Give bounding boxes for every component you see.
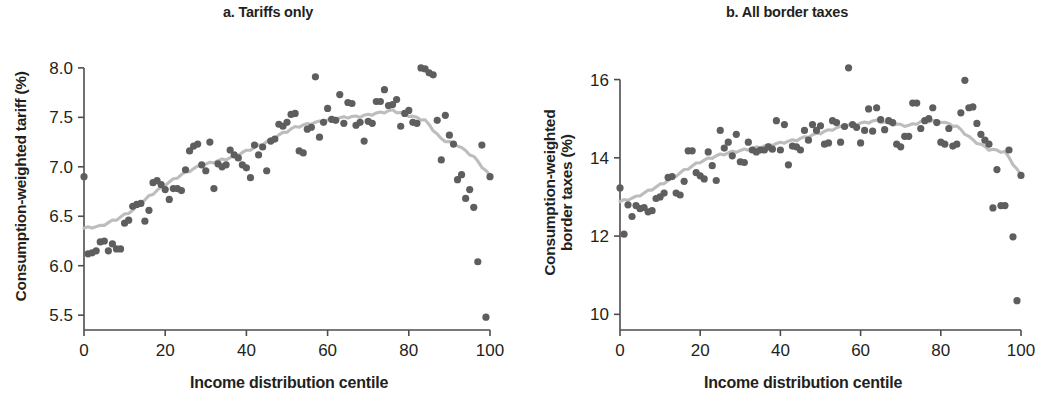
scatter-point <box>873 104 880 111</box>
x-tick-label: 0 <box>615 341 624 360</box>
scatter-point <box>669 173 676 180</box>
scatter-point <box>661 189 668 196</box>
x-tick-label: 100 <box>476 341 504 360</box>
scatter-point <box>446 132 453 139</box>
trend-line <box>620 120 1021 202</box>
scatter-point <box>1009 233 1016 240</box>
scatter-point <box>356 119 363 126</box>
scatter-point <box>853 124 860 131</box>
scatter-point <box>458 171 465 178</box>
scatter-point <box>953 141 960 148</box>
scatter-point <box>941 141 948 148</box>
scatter-point <box>348 100 355 107</box>
x-tick-label: 60 <box>851 341 870 360</box>
x-tick-label: 40 <box>771 341 790 360</box>
scatter-point <box>917 125 924 132</box>
x-tick-label: 20 <box>156 341 175 360</box>
y-tick-label: 12 <box>590 227 609 246</box>
panel-b-plot-area: 10121416020406080100 <box>520 0 1040 398</box>
x-tick-label: 60 <box>318 341 337 360</box>
scatter-point <box>320 119 327 126</box>
scatter-point <box>263 167 270 174</box>
scatter-point <box>442 112 449 119</box>
scatter-point <box>93 247 100 254</box>
scatter-point <box>438 156 445 163</box>
scatter-point <box>223 161 230 168</box>
scatter-point <box>474 258 481 265</box>
scatter-point <box>869 128 876 135</box>
scatter-point <box>833 119 840 126</box>
scatter-point <box>745 139 752 146</box>
x-tick-label: 40 <box>237 341 256 360</box>
scatter-point <box>785 161 792 168</box>
scatter-point <box>105 247 112 254</box>
scatter-point <box>969 103 976 110</box>
y-tick-label: 16 <box>590 71 609 90</box>
scatter-point <box>729 152 736 159</box>
scatter-point <box>905 133 912 140</box>
panel-a-plot-area: 5.56.06.57.07.58.0020406080100 <box>0 0 520 398</box>
scatter-point <box>977 131 984 138</box>
scatter-point <box>993 166 1000 173</box>
scatter-point <box>989 204 996 211</box>
scatter-point <box>101 237 108 244</box>
scatter-point <box>624 201 631 208</box>
y-tick-label: 7.5 <box>49 108 73 127</box>
scatter-point <box>1005 146 1012 153</box>
scatter-point <box>466 186 473 193</box>
scatter-point <box>141 218 148 225</box>
panel-a-x-axis-label: Income distribution centile <box>0 374 520 392</box>
scatter-point <box>769 146 776 153</box>
scatter-point <box>462 195 469 202</box>
scatter-point <box>857 139 864 146</box>
x-tick-label: 100 <box>1007 341 1035 360</box>
scatter-point <box>194 140 201 147</box>
scatter-point <box>430 71 437 78</box>
scatter-point <box>825 139 832 146</box>
scatter-point <box>881 126 888 133</box>
scatter-point <box>841 123 848 130</box>
scatter-point <box>247 174 254 181</box>
scatter-point <box>620 231 627 238</box>
scatter-point <box>889 119 896 126</box>
scatter-point <box>478 141 485 148</box>
scatter-point <box>292 110 299 117</box>
figure-two-panel-scatter: a. Tariffs only Consumption-weighted tar… <box>0 0 1040 398</box>
scatter-point <box>243 164 250 171</box>
scatter-point <box>413 120 420 127</box>
scatter-point <box>865 105 872 112</box>
scatter-point <box>733 131 740 138</box>
scatter-point <box>721 144 728 151</box>
scatter-point <box>773 117 780 124</box>
scatter-point <box>377 98 384 105</box>
scatter-point <box>616 184 623 191</box>
scatter-point <box>809 121 816 128</box>
scatter-point <box>817 122 824 129</box>
y-tick-label: 6.5 <box>49 207 73 226</box>
scatter-point <box>681 178 688 185</box>
scatter-point <box>312 73 319 80</box>
scatter-point <box>336 91 343 98</box>
scatter-point <box>877 116 884 123</box>
scatter-point <box>125 217 132 224</box>
scatter-point <box>434 117 441 124</box>
scatter-point <box>397 123 404 130</box>
scatter-point <box>162 186 169 193</box>
scatter-point <box>178 187 185 194</box>
scatter-point <box>945 125 952 132</box>
scatter-point <box>717 127 724 134</box>
scatter-points-group <box>80 64 493 320</box>
scatter-point <box>1013 297 1020 304</box>
scatter-point <box>393 96 400 103</box>
scatter-point <box>861 127 868 134</box>
scatter-point <box>210 185 217 192</box>
scatter-point <box>628 213 635 220</box>
scatter-point <box>486 173 493 180</box>
scatter-point <box>973 120 980 127</box>
scatter-point <box>202 167 209 174</box>
scatter-point <box>255 151 262 158</box>
scatter-point <box>405 107 412 114</box>
y-tick-label: 7.0 <box>49 158 73 177</box>
x-tick-label: 80 <box>931 341 950 360</box>
scatter-point <box>701 175 708 182</box>
